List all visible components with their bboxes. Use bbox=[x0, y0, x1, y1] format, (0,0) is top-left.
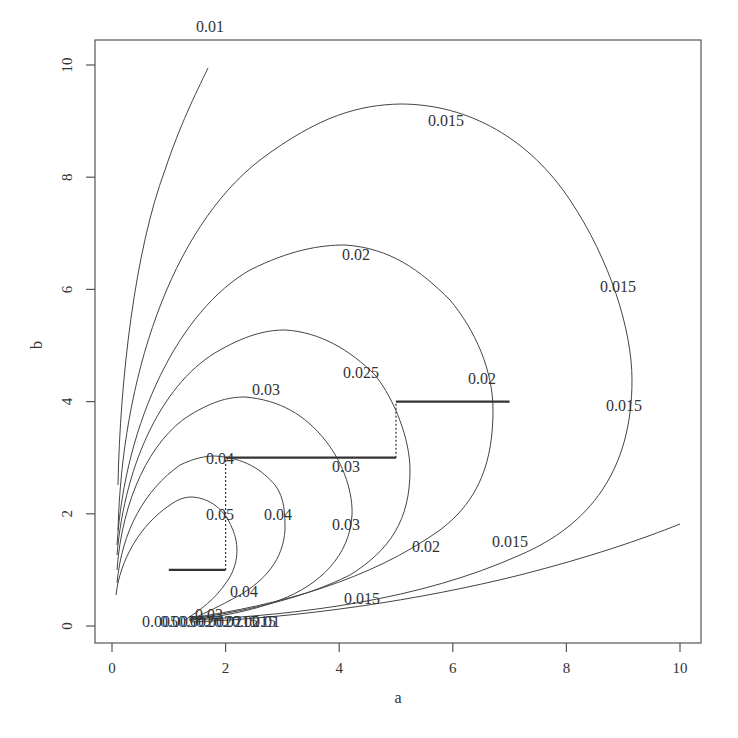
x-tick-label: 10 bbox=[673, 660, 688, 676]
contour-label: 0.04 bbox=[264, 506, 292, 523]
contour-label: 0.015 bbox=[606, 397, 642, 414]
contour-label: 0.015 bbox=[344, 590, 380, 607]
contour-0.01-upper bbox=[118, 68, 208, 485]
contour-label: 0.015 bbox=[428, 112, 464, 129]
y-axis: 0 2 4 6 8 10 b bbox=[28, 58, 95, 630]
contour-label: 0.02 bbox=[342, 246, 370, 263]
y-tick-label: 4 bbox=[59, 397, 75, 405]
y-tick-label: 0 bbox=[59, 622, 75, 630]
x-tick-label: 0 bbox=[108, 660, 116, 676]
contour-0.04 bbox=[117, 456, 285, 620]
contour-0.015 bbox=[118, 104, 632, 620]
contour-label: 0.015 bbox=[492, 533, 528, 550]
contour-labels: 0.01 0.015 0.015 0.015 0.015 0.015 0.02 … bbox=[142, 18, 642, 630]
x-tick-label: 6 bbox=[449, 660, 457, 676]
contour-label: 0.02 bbox=[468, 370, 496, 387]
y-tick-label: 6 bbox=[59, 285, 75, 293]
x-tick-label: 4 bbox=[335, 660, 343, 676]
contour-chart: 0 2 4 6 8 10 a 0 2 4 6 8 10 b bbox=[0, 0, 738, 738]
contour-label: 0.03 bbox=[332, 458, 360, 475]
contour-label: 0.01 bbox=[196, 18, 224, 35]
x-tick-label: 8 bbox=[563, 660, 571, 676]
y-tick-label: 10 bbox=[59, 58, 75, 73]
y-tick-label: 2 bbox=[59, 510, 75, 518]
contour-lines bbox=[116, 68, 680, 622]
contour-label: 0.02 bbox=[412, 538, 440, 555]
contour-0.02 bbox=[117, 245, 493, 618]
x-axis: 0 2 4 6 8 10 a bbox=[108, 643, 687, 706]
step-path bbox=[169, 402, 510, 570]
y-tick-label: 8 bbox=[59, 173, 75, 181]
contour-label-cluster: 0.03 bbox=[195, 606, 223, 623]
contour-label: 0.015 bbox=[600, 278, 636, 295]
y-axis-title: b bbox=[28, 341, 45, 349]
contour-label: 0.03 bbox=[252, 381, 280, 398]
contour-label: 0.04 bbox=[206, 450, 234, 467]
x-tick-label: 2 bbox=[222, 660, 230, 676]
x-axis-title: a bbox=[394, 689, 401, 706]
contour-label: 0.05 bbox=[206, 506, 234, 523]
contour-label: 0.03 bbox=[332, 516, 360, 533]
plot-frame bbox=[95, 40, 701, 643]
contour-label: 0.025 bbox=[343, 364, 379, 381]
contour-label: 0.04 bbox=[230, 583, 258, 600]
